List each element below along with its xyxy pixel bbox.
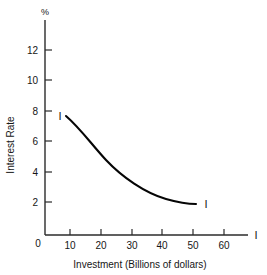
y-axis-title: Interest Rate — [5, 116, 16, 174]
y-tick-label-8: 8 — [32, 106, 38, 117]
y-tick-label-2: 2 — [32, 197, 38, 208]
investment-demand-chart: 12 10 8 6 4 2 0 10 20 30 40 50 60 % Inte… — [0, 0, 267, 275]
x-tick-label-20: 20 — [95, 240, 107, 251]
x-tick-label-60: 60 — [218, 240, 230, 251]
curve-start-label: I — [58, 110, 61, 122]
x-tick-label-50: 50 — [187, 240, 199, 251]
y-axis-unit-symbol: % — [41, 7, 49, 17]
y-tick-label-4: 4 — [32, 167, 38, 178]
x-tick-label-0: 0 — [35, 238, 41, 249]
x-axis-ticks — [70, 229, 224, 235]
x-tick-label-30: 30 — [126, 240, 138, 251]
x-tick-label-10: 10 — [64, 240, 76, 251]
y-tick-label-6: 6 — [32, 136, 38, 147]
y-tick-label-12: 12 — [27, 45, 39, 56]
chart-canvas: 12 10 8 6 4 2 0 10 20 30 40 50 60 % Inte… — [0, 0, 267, 275]
x-axis-end-label: I — [254, 229, 257, 241]
x-axis-title: Investment (Billions of dollars) — [73, 259, 206, 270]
y-tick-label-10: 10 — [27, 75, 39, 86]
x-tick-label-40: 40 — [156, 240, 168, 251]
y-axis-ticks — [45, 50, 52, 202]
investment-demand-curve — [66, 116, 196, 204]
curve-end-label: I — [204, 198, 207, 210]
